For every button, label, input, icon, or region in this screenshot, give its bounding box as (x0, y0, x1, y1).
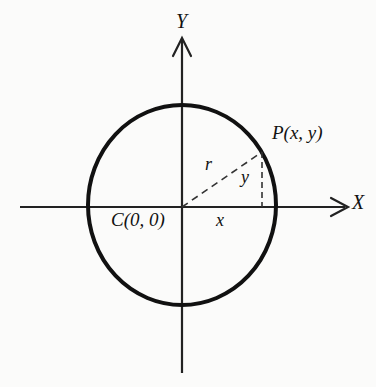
y-axis-label: Y (176, 11, 187, 31)
center-c-label: C(0, 0) (111, 210, 165, 229)
horizontal-leg-label: x (216, 211, 224, 229)
x-axis-label: X (352, 192, 364, 212)
radius-label: r (205, 155, 212, 173)
point-p-label: P(x, y) (272, 123, 323, 142)
diagram-canvas (0, 0, 376, 387)
circle-diagram-figure: Y X P(x, y) C(0, 0) r y x (0, 0, 376, 387)
radius-dashed-line (182, 152, 262, 207)
vertical-leg-label: y (241, 168, 249, 186)
